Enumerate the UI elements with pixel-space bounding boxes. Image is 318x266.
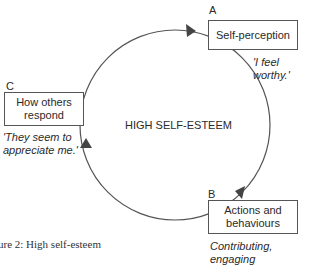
node-c-quote-line1: 'They seem to bbox=[3, 131, 78, 144]
node-c-label-line1: How others bbox=[16, 96, 72, 109]
node-c-label-line2: respond bbox=[24, 109, 64, 122]
figure-caption: ure 2: High self-esteem bbox=[0, 238, 101, 250]
center-label: HIGH SELF-ESTEEM bbox=[125, 119, 232, 131]
arrowhead-to-a bbox=[186, 24, 196, 37]
node-b-letter: B bbox=[208, 188, 215, 200]
node-a-letter: A bbox=[209, 4, 216, 16]
node-b-label-line1: Actions and bbox=[224, 204, 281, 217]
node-c-how-others-respond: How others respond bbox=[4, 92, 84, 126]
node-b-quote: Contributing, engaging bbox=[210, 240, 318, 266]
node-a-quote: 'I feel worthy.' bbox=[253, 56, 318, 82]
node-a-self-perception: Self-perception bbox=[208, 20, 298, 50]
node-b-label-line2: behaviours bbox=[226, 217, 280, 230]
node-a-label: Self-perception bbox=[216, 29, 290, 42]
node-c-quote-line2: appreciate me.' bbox=[3, 144, 78, 157]
node-c-quote: 'They seem to appreciate me.' bbox=[3, 131, 78, 157]
node-c-letter: C bbox=[6, 80, 14, 92]
node-b-actions-and-behaviours: Actions and behaviours bbox=[208, 200, 298, 234]
